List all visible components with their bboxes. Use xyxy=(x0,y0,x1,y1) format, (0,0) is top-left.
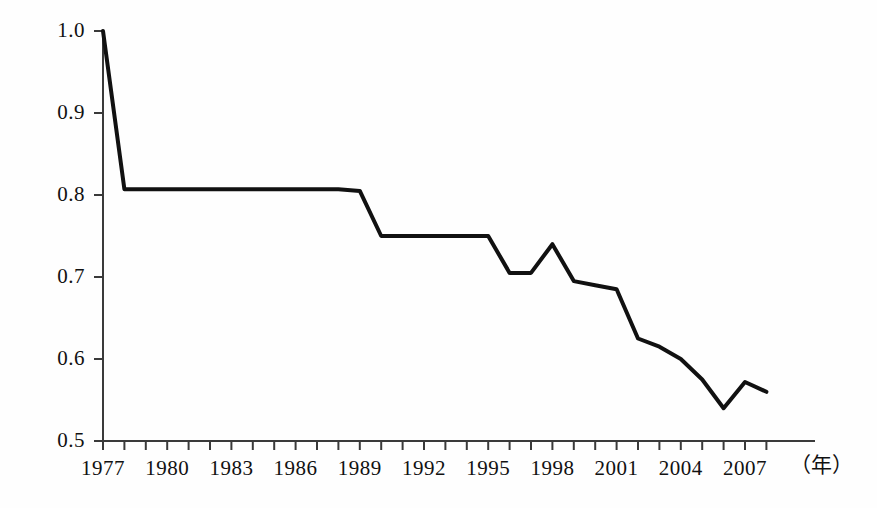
y-axis-tick-label: 0.8 xyxy=(23,184,85,205)
y-axis-tick-label: 0.9 xyxy=(23,102,85,123)
y-axis-ticks xyxy=(94,31,103,441)
data-line xyxy=(103,31,766,408)
x-axis-unit-label: （年） xyxy=(790,455,853,476)
y-axis-tick-label: 0.6 xyxy=(23,348,85,369)
x-axis-tick-label: 2007 xyxy=(705,458,785,479)
plot-area xyxy=(0,0,877,508)
data-series-group xyxy=(103,31,766,408)
x-axis-ticks xyxy=(103,441,766,450)
y-axis-tick-label: 1.0 xyxy=(23,20,85,41)
line-chart: 0.50.60.70.80.91.0 197719801983198619891… xyxy=(0,0,877,508)
y-axis-tick-label: 0.5 xyxy=(23,430,85,451)
y-axis-tick-label: 0.7 xyxy=(23,266,85,287)
